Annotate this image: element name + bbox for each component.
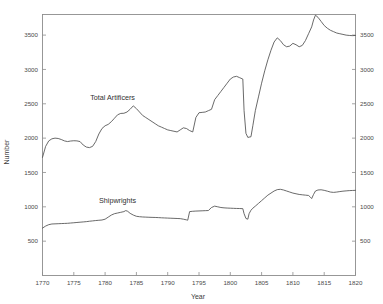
series-label-total-artificers: Total Artificers xyxy=(90,93,135,102)
y-tick-label-right: 2000 xyxy=(360,134,374,141)
chart-background xyxy=(0,0,383,304)
y-tick-label-right: 500 xyxy=(360,237,371,244)
y-tick-label-right: 3000 xyxy=(360,66,374,73)
x-tick-label: 1815 xyxy=(317,279,331,286)
x-tick-label: 1820 xyxy=(349,279,363,286)
y-tick-label-left: 500 xyxy=(28,237,39,244)
x-tick-label: 1780 xyxy=(98,279,112,286)
x-tick-label: 1770 xyxy=(36,279,50,286)
y-tick-label-right: 2500 xyxy=(360,100,374,107)
series-label-shipwrights: Shipwrights xyxy=(99,196,137,205)
y-tick-label-right: 3500 xyxy=(360,31,374,38)
y-tick-label-right: 1500 xyxy=(360,169,374,176)
y-tick-label-left: 1000 xyxy=(24,203,38,210)
x-tick-label: 1785 xyxy=(130,279,144,286)
y-tick-label-left: 3000 xyxy=(24,66,38,73)
x-axis-title: Year xyxy=(191,293,206,300)
x-tick-label: 1775 xyxy=(67,279,81,286)
y-tick-label-left: 2500 xyxy=(24,100,38,107)
y-tick-label-left: 2000 xyxy=(24,134,38,141)
chart-container: 1770177517801785179017951800180518101815… xyxy=(0,0,383,304)
line-chart: 1770177517801785179017951800180518101815… xyxy=(0,0,383,304)
x-tick-label: 1790 xyxy=(161,279,175,286)
y-tick-label-left: 1500 xyxy=(24,169,38,176)
x-tick-label: 1805 xyxy=(255,279,269,286)
y-axis-title: Number xyxy=(3,139,10,165)
x-tick-label: 1810 xyxy=(286,279,300,286)
y-tick-label-right: 1000 xyxy=(360,203,374,210)
x-tick-label: 1795 xyxy=(192,279,206,286)
x-tick-label: 1800 xyxy=(223,279,237,286)
y-tick-label-left: 3500 xyxy=(24,31,38,38)
